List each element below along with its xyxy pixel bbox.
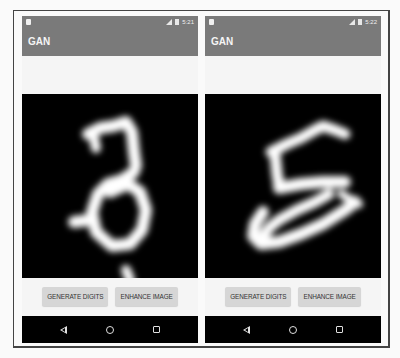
status-time: 5:22 <box>365 19 377 25</box>
recents-icon[interactable] <box>153 326 160 333</box>
generate-digits-button[interactable]: GENERATE DIGITS <box>42 287 108 306</box>
status-bar: 5:21 <box>22 16 198 28</box>
generated-digit-image <box>205 94 381 278</box>
notification-icon <box>26 19 31 25</box>
status-time: 5:21 <box>182 19 194 25</box>
action-buttons: GENERATE DIGITS ENHANCE IMAGE <box>205 287 381 307</box>
app-title: GAN <box>28 36 50 47</box>
notification-icon <box>209 19 214 25</box>
generate-digits-button[interactable]: GENERATE DIGITS <box>225 287 291 306</box>
enhance-image-button[interactable]: ENHANCE IMAGE <box>115 287 177 306</box>
app-bar: 5:22 GAN <box>205 16 381 56</box>
system-nav-bar <box>22 316 198 343</box>
phone-screen-right: 5:22 GAN GENERATE DIGITS ENHANCE IMAGE <box>205 16 381 343</box>
app-bar: 5:21 GAN <box>22 16 198 56</box>
signal-icon <box>165 19 172 25</box>
app-title: GAN <box>211 36 233 47</box>
home-icon[interactable] <box>106 326 114 334</box>
generated-digit-image <box>22 94 198 278</box>
signal-icon <box>348 19 355 25</box>
back-icon[interactable] <box>243 326 250 334</box>
phone-screen-left: 5:21 GAN GENERATE DIGITS ENHANCE IMAGE <box>22 16 198 343</box>
back-icon[interactable] <box>60 326 67 334</box>
enhance-image-button[interactable]: ENHANCE IMAGE <box>298 287 360 306</box>
recents-icon[interactable] <box>336 326 343 333</box>
status-bar: 5:22 <box>205 16 381 28</box>
battery-icon <box>358 19 362 25</box>
home-icon[interactable] <box>289 326 297 334</box>
action-buttons: GENERATE DIGITS ENHANCE IMAGE <box>22 287 198 307</box>
system-nav-bar <box>205 316 381 343</box>
battery-icon <box>175 19 179 25</box>
